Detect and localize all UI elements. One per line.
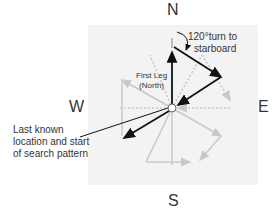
start-location-label: Last known location and start of search … [13,124,89,160]
east-label: E [258,98,269,116]
west-label: W [69,98,84,116]
north-label: N [167,1,179,19]
start-point [168,104,176,112]
turn-annotation: 120°turn to starboard [188,31,237,55]
first-leg-label: First Leg (North) [136,71,167,91]
south-label: S [168,192,179,210]
